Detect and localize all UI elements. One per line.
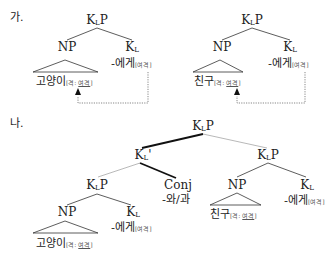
np-word: 친구[격: 여격]	[194, 76, 241, 87]
kl-node: KL	[125, 41, 139, 54]
kl-node: KL	[300, 179, 314, 192]
np-node: NP	[228, 179, 247, 191]
kl-morpheme: -에게[여격]	[284, 195, 325, 206]
syntax-tree-diagram: 가. 나. KLP NP KL -에게[여격] 고양이[격: 여격] KLP N…	[0, 0, 333, 262]
klp-node: KLP	[86, 179, 108, 192]
edge	[222, 28, 252, 40]
klp-node: KLP	[257, 149, 279, 162]
thin-edge	[98, 163, 140, 177]
kl-morpheme: -에게[여격]	[268, 58, 309, 69]
np-node: NP	[58, 41, 77, 53]
edge	[252, 28, 290, 40]
klp-node: KLP	[241, 14, 263, 27]
np-triangle	[33, 221, 98, 233]
edge	[67, 28, 97, 40]
thick-edge	[142, 134, 203, 148]
np-word: 고양이[격: 여격]	[36, 238, 93, 249]
edge	[97, 28, 132, 40]
kl-bar-node: KL'	[135, 149, 152, 162]
thin-edge	[203, 134, 267, 148]
np-triangle	[33, 60, 98, 72]
edge	[97, 194, 131, 205]
thick-edge	[140, 163, 176, 178]
arrow-up-icon	[75, 88, 81, 95]
section-marker-ga: 가.	[10, 12, 24, 23]
kl-node: KL	[283, 41, 297, 54]
agreement-dotted-line	[237, 72, 305, 103]
kl-morpheme: -에게[여격]	[111, 58, 152, 69]
np-word: 친구[격: 여격]	[210, 209, 257, 220]
section-marker-na: 나.	[10, 118, 24, 129]
np-triangle	[193, 60, 243, 72]
np-node: NP	[58, 206, 77, 218]
edge	[67, 194, 97, 205]
np-word: 고양이[격: 여격]	[36, 76, 93, 87]
conj-morpheme: -와/과	[162, 194, 190, 205]
klp-node: KLP	[86, 14, 108, 27]
arrow-up-icon	[234, 88, 240, 95]
edge	[268, 163, 306, 177]
conj-node: Conj	[164, 179, 192, 191]
np-node: NP	[213, 41, 232, 53]
np-triangle	[210, 193, 261, 205]
edge	[237, 163, 268, 177]
kl-node: KL	[126, 206, 140, 219]
root-klp-node: KLP	[192, 120, 214, 133]
kl-morpheme: -에게[여격]	[111, 222, 152, 233]
